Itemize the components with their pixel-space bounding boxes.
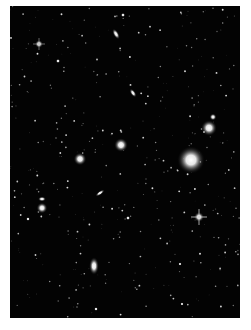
faint-star: [89, 8, 90, 9]
faint-star: [70, 21, 71, 22]
faint-star: [186, 45, 188, 47]
faint-star: [21, 193, 22, 194]
faint-star: [96, 59, 98, 61]
faint-star: [76, 262, 78, 264]
faint-star: [65, 147, 67, 149]
faint-star: [61, 141, 63, 143]
faint-star: [171, 229, 172, 230]
faint-star: [179, 271, 180, 272]
faint-star: [34, 120, 36, 122]
faint-star: [27, 91, 28, 92]
faint-star: [68, 297, 70, 299]
star-lower-right: [178, 262, 182, 266]
faint-star: [16, 181, 18, 183]
faint-star: [187, 304, 189, 306]
faint-star: [204, 204, 206, 206]
faint-star: [191, 47, 192, 48]
faint-star: [215, 208, 216, 209]
faint-star: [233, 151, 235, 153]
faint-star: [138, 32, 140, 34]
faint-star: [63, 67, 65, 69]
faint-star: [37, 142, 39, 144]
faint-star: [35, 254, 37, 256]
faint-star: [147, 86, 148, 87]
faint-star: [218, 237, 220, 239]
faint-star: [26, 48, 27, 49]
faint-star: [212, 8, 213, 9]
faint-star: [124, 204, 125, 205]
faint-star: [61, 117, 62, 118]
faint-star: [111, 134, 112, 135]
faint-star: [222, 9, 224, 11]
faint-star: [147, 95, 149, 97]
faint-star: [119, 75, 120, 76]
faint-star: [160, 66, 162, 68]
faint-star: [137, 183, 138, 184]
faint-star: [14, 190, 16, 192]
faint-star: [145, 178, 146, 179]
faint-star: [29, 184, 30, 185]
faint-star: [174, 254, 175, 255]
faint-star: [133, 207, 134, 208]
faint-star: [119, 48, 121, 50]
faint-star: [180, 187, 181, 188]
faint-star: [10, 168, 11, 169]
faint-star: [189, 120, 190, 121]
faint-star: [50, 85, 51, 86]
faint-star: [216, 31, 217, 32]
faint-star: [31, 62, 32, 63]
faint-star: [204, 76, 205, 77]
faint-star: [104, 274, 105, 275]
faint-star: [156, 150, 157, 151]
faint-star: [55, 137, 56, 138]
faint-star: [96, 126, 97, 127]
faint-star: [36, 294, 37, 295]
faint-star: [220, 29, 221, 30]
faint-star: [22, 69, 23, 70]
faint-star: [145, 183, 147, 185]
faint-star: [215, 286, 217, 288]
faint-star: [20, 214, 22, 216]
faint-star: [135, 272, 136, 273]
faint-star: [213, 90, 214, 91]
star-left-mid: [56, 59, 60, 63]
elliptical-galaxy-bottom: [89, 257, 99, 275]
faint-star: [237, 254, 239, 256]
faint-star: [36, 258, 37, 259]
faint-star: [84, 20, 85, 21]
faint-star: [155, 159, 156, 160]
faint-star: [17, 305, 18, 306]
faint-star: [196, 38, 198, 40]
faint-star: [182, 25, 183, 26]
faint-star: [177, 170, 179, 172]
faint-star: [166, 83, 167, 84]
faint-star: [127, 76, 128, 77]
faint-star: [142, 121, 143, 122]
faint-star: [233, 216, 234, 217]
background-stars: [10, 6, 240, 318]
faint-star: [168, 285, 169, 286]
faint-star: [82, 123, 83, 124]
faint-star: [117, 190, 118, 191]
faint-star: [150, 130, 151, 131]
faint-star: [81, 274, 82, 275]
faint-star: [163, 172, 164, 173]
faint-star: [15, 117, 16, 118]
faint-star: [213, 237, 214, 238]
faint-star: [53, 183, 55, 185]
faint-star: [189, 145, 190, 146]
faint-star: [94, 211, 95, 212]
faint-star: [193, 260, 194, 261]
faint-star: [68, 234, 69, 235]
faint-star: [120, 130, 122, 132]
faint-star: [76, 238, 77, 239]
star-left-low: [26, 217, 30, 221]
faint-star: [220, 306, 222, 308]
faint-star: [28, 92, 29, 93]
faint-star: [13, 48, 14, 49]
faint-star: [148, 8, 149, 9]
bright-elliptical-galaxy: [177, 146, 205, 174]
faint-star: [129, 263, 130, 264]
faint-star: [172, 135, 173, 136]
faint-star: [218, 255, 219, 256]
